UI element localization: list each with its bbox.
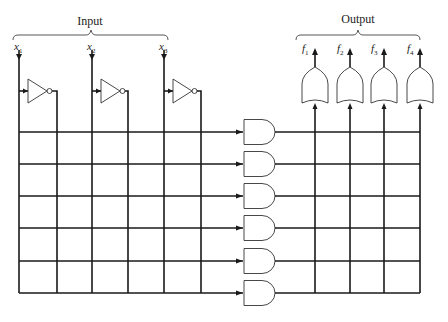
and-gate-icon (244, 184, 275, 209)
svg-text:x3: x3 (158, 40, 168, 55)
arrow-right-icon (236, 194, 243, 199)
or-gates (302, 67, 433, 103)
input-label-x2: x2 (86, 40, 96, 55)
svg-text:f4: f4 (407, 42, 414, 57)
inversion-bubble-icon (120, 89, 125, 94)
arrow-right-icon (96, 89, 101, 94)
input-brace (13, 30, 168, 40)
or-gate-icon (302, 67, 328, 103)
inversion-bubble-icon (47, 89, 52, 94)
arrow-right-icon (168, 89, 173, 94)
input-label: Input (77, 14, 103, 28)
and-gate-icon (244, 249, 275, 274)
or-plane-rows (275, 132, 420, 293)
and-gates (244, 120, 275, 306)
input-label-x1: x1 (13, 40, 23, 55)
input-label-x3: x3 (158, 40, 168, 55)
output-label-f1: f1 (302, 42, 309, 57)
svg-text:x2: x2 (86, 40, 96, 55)
or-gate-icon (407, 67, 433, 103)
arrow-up-icon (418, 103, 423, 109)
svg-text:f1: f1 (302, 42, 309, 57)
and-plane-true-columns (19, 50, 164, 293)
or-gate-icon (337, 67, 363, 103)
output-label-f3: f3 (371, 42, 378, 57)
arrow-up-icon (347, 48, 353, 55)
output-label: Output (341, 12, 375, 26)
svg-text:f3: f3 (371, 42, 378, 57)
and-plane-rows (19, 130, 243, 296)
output-label-f4: f4 (407, 42, 414, 57)
output-label-f2: f2 (337, 42, 344, 57)
and-gate-icon (244, 281, 275, 306)
and-gate-icon (244, 152, 275, 177)
or-gate-icon (371, 67, 397, 103)
svg-text:x1: x1 (13, 40, 23, 55)
and-gate-icon (244, 120, 275, 145)
arrow-up-icon (381, 48, 387, 55)
output-brace (296, 30, 420, 40)
arrow-right-icon (236, 130, 243, 135)
not-gate-icon (101, 79, 120, 103)
pla-diagram: Input Output x1 x2 x3 f1 f2 f3 f4 (0, 0, 448, 322)
not-gate-icon (173, 79, 192, 103)
arrow-up-icon (348, 103, 353, 109)
svg-text:f2: f2 (337, 42, 344, 57)
arrow-right-icon (236, 226, 243, 231)
arrow-right-icon (23, 89, 28, 94)
and-gate-icon (244, 216, 275, 241)
arrow-up-icon (312, 48, 318, 55)
not-gate-icon (28, 79, 47, 103)
arrow-right-icon (236, 291, 243, 296)
inversion-bubble-icon (192, 89, 197, 94)
arrow-up-icon (313, 103, 318, 109)
arrow-right-icon (236, 162, 243, 167)
arrow-right-icon (236, 259, 243, 264)
arrow-up-icon (417, 48, 423, 55)
arrow-up-icon (382, 103, 387, 109)
